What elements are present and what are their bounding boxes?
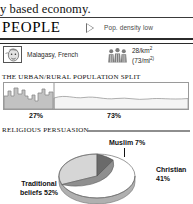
urban-rural-chart: [3, 82, 189, 110]
body-copy-line: y based economy.: [0, 3, 193, 16]
label-muslim: Muslim 7%: [109, 139, 145, 148]
density-imperial: (73/mi: [132, 57, 150, 64]
density-metric: 28/km: [132, 47, 150, 54]
play-triangle-icon-inner: [87, 24, 93, 32]
density-metric-sup: 2: [150, 46, 153, 51]
label-christian-pct: 41%: [156, 175, 170, 182]
label-traditional-name: Traditional: [21, 180, 56, 187]
rural-percent: 73%: [107, 112, 121, 119]
urban-rural-labels: 27% 73%: [0, 112, 193, 122]
people-header: PEOPLE Pop. density low: [0, 17, 193, 40]
urban-rural-graphic: [4, 83, 188, 109]
label-traditional: Traditional beliefs 52%: [8, 180, 70, 197]
religion-pie-section: Muslim 7% Christian 41% Traditional beli…: [0, 136, 193, 204]
density-note: Pop. density low: [104, 24, 153, 31]
urban-rural-title: THE URBAN/RURAL POPULATION SPLIT: [2, 73, 141, 81]
header-divider: [0, 38, 193, 44]
density-value: 28/km2 (73/mi2): [132, 45, 154, 65]
label-christian: Christian 41%: [156, 166, 186, 183]
density-imperial-sup: 2): [150, 56, 154, 61]
body-copy: ………………………………… pp……… y based economy.: [0, 0, 193, 16]
facts-row: Malagasy, French: [0, 45, 193, 67]
label-christian-name: Christian: [156, 166, 186, 173]
urban-percent: 27%: [29, 112, 43, 119]
people-group-icon: [108, 47, 127, 64]
page-title: PEOPLE: [2, 19, 61, 36]
religion-header: RELIGIOUS PERSUASION: [0, 126, 193, 136]
fact-density: 28/km2 (73/mi2): [108, 45, 154, 65]
face-icon: [3, 46, 22, 63]
fact-language: Malagasy, French: [3, 46, 78, 63]
people-infographic-panel: ………………………………… pp……… y based economy. PEO…: [0, 0, 193, 204]
religion-header-rule: [88, 130, 190, 132]
muslim-leader-line: [124, 148, 125, 157]
language-value: Malagasy, French: [27, 51, 78, 59]
label-traditional-pct: beliefs 52%: [20, 189, 58, 196]
religion-title: RELIGIOUS PERSUASION: [2, 126, 89, 134]
